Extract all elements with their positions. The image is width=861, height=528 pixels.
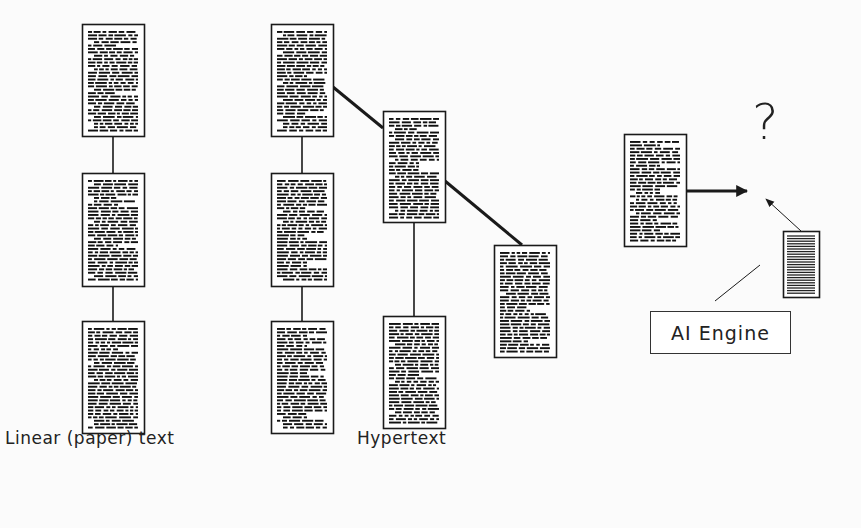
document-hyper-1 [272,25,334,137]
document-hyper-2 [272,174,334,287]
documents [83,25,820,434]
question-mark-icon: ? [752,97,779,147]
document-hyper-6 [495,246,557,358]
hypertext-diagram [0,0,861,528]
document-hyper-4 [384,112,446,223]
linear-text-label: Linear (paper) text [5,428,174,448]
document-hyper-3 [272,322,334,434]
ai-engine-label: AI Engine [671,322,770,344]
document-linear-1 [83,25,145,137]
link-line [445,181,522,245]
document-hyper-5 [384,317,446,429]
document-linear-3 [83,322,145,434]
link-line [715,265,760,301]
document-linear-2 [83,174,145,287]
hypertext-label: Hypertext [357,428,446,448]
ai-engine-box: AI Engine [650,311,791,354]
arrows [686,191,801,231]
arrow [766,199,801,231]
link-line [333,87,383,128]
document-input-doc [625,135,687,247]
document-ai-doc [784,232,820,298]
